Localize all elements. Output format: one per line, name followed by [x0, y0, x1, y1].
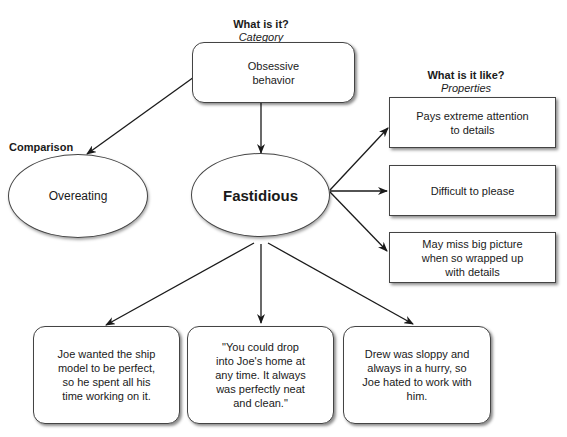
property-node-3: May miss big picture when so wrapped up …	[389, 232, 556, 283]
example-text-2: "You could drop into Joe's home at any t…	[213, 340, 309, 410]
property-text-2: Difficult to please	[431, 184, 515, 198]
properties-header-subtitle: Properties	[411, 82, 521, 95]
example-node-2: "You could drop into Joe's home at any t…	[187, 326, 334, 424]
property-text-3: May miss big picture when so wrapped up …	[414, 237, 532, 279]
example-node-3: Drew was sloppy and always in a hurry, s…	[343, 326, 491, 424]
properties-header: What is it like? Properties	[411, 69, 521, 95]
category-header-title: What is it?	[211, 18, 311, 31]
comparison-node-text: Overeating	[49, 189, 108, 203]
example-node-1: Joe wanted the ship model to be perfect,…	[33, 326, 180, 424]
property-text-1: Pays extreme attention to details	[413, 109, 533, 137]
category-node-text: Obsessive behavior	[239, 59, 309, 87]
example-text-1: Joe wanted the ship model to be perfect,…	[57, 347, 157, 403]
example-text-3: Drew was sloppy and always in a hurry, s…	[362, 347, 472, 403]
category-header: What is it? Category	[211, 18, 311, 44]
property-node-2: Difficult to please	[389, 165, 556, 216]
category-node: Obsessive behavior	[192, 42, 355, 103]
property-node-1: Pays extreme attention to details	[389, 97, 556, 148]
center-concept-node: Fastidious	[191, 153, 330, 237]
center-concept-text: Fastidious	[223, 187, 298, 204]
properties-header-title: What is it like?	[411, 69, 521, 82]
comparison-label: Comparison	[9, 141, 73, 153]
comparison-node: Overeating	[8, 154, 148, 238]
